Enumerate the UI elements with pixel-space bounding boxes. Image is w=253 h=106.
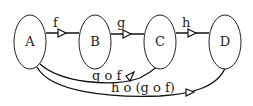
arrow-f-icon — [58, 29, 66, 37]
svg-text:C: C — [155, 34, 165, 49]
node-C: C — [144, 15, 176, 69]
node-D: D — [209, 15, 241, 69]
composition-diagram: A B C D f g h g o f h o (g o f) — [0, 0, 253, 106]
node-A: A — [14, 15, 46, 69]
arrow-h-icon — [188, 29, 196, 37]
label-hogof: h o (g o f) — [111, 80, 175, 95]
svg-text:D: D — [220, 34, 230, 49]
label-g: g — [117, 15, 125, 30]
svg-text:B: B — [90, 34, 100, 49]
diagram-canvas: A B C D f g h g o f h o (g o f) — [0, 0, 253, 106]
label-f: f — [53, 15, 59, 30]
arrow-hogof-icon — [186, 89, 194, 96]
arrow-g-icon — [123, 30, 131, 38]
label-h: h — [182, 15, 191, 30]
node-B: B — [79, 15, 111, 69]
svg-text:A: A — [24, 34, 35, 49]
